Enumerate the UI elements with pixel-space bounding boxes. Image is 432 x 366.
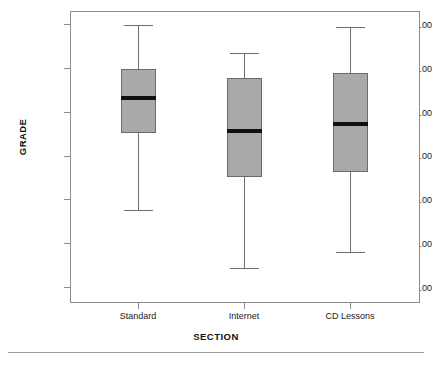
y-axis-title: GRADE [17,107,31,167]
median-internet [227,129,262,133]
upper-whisker-internet [244,53,245,78]
upper-whisker-standard [138,25,139,69]
x-tick-label-standard: Standard [83,311,193,321]
x-tick-label-internet: Internet [189,311,299,321]
lower-whisker-cap-cd-lessons [336,252,365,253]
x-tick-mark-standard [138,303,139,309]
upper-whisker-cd-lessons [350,27,351,73]
median-cd-lessons [333,122,368,126]
median-standard [121,96,156,100]
boxplot-figure: GRADE 100.00 90.00 80.00 70.00 60.00 50.… [0,0,432,366]
lower-whisker-cap-internet [230,268,259,269]
x-axis-title: SECTION [0,331,432,342]
upper-whisker-cap-standard [124,25,153,26]
box-internet [227,78,262,177]
upper-whisker-cap-cd-lessons [336,27,365,28]
footer-divider [8,352,424,353]
box-standard [121,69,156,133]
lower-whisker-internet [244,177,245,268]
x-tick-mark-internet [244,303,245,309]
lower-whisker-standard [138,133,139,210]
x-tick-label-cd-lessons: CD Lessons [295,311,405,321]
lower-whisker-cd-lessons [350,172,351,252]
x-tick-mark-cd-lessons [350,303,351,309]
lower-whisker-cap-standard [124,210,153,211]
upper-whisker-cap-internet [230,53,259,54]
